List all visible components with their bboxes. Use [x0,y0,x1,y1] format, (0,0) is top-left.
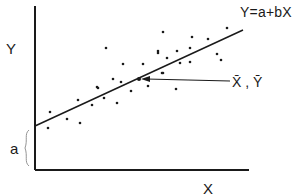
data-point [191,36,194,39]
mean-point [137,77,141,81]
data-point [226,27,229,30]
data-point [79,122,82,125]
data-point [157,52,160,55]
data-point [166,57,169,60]
data-point [96,86,99,89]
data-point [162,72,165,75]
y-axis-label: Y [6,41,16,56]
mean-arrow [141,76,230,82]
mean-point-label: X̄ , Ȳ [232,75,262,89]
data-point [147,85,150,88]
data-point [216,53,219,56]
data-point [162,31,165,34]
data-point [189,47,192,50]
data-point [91,104,94,107]
data-point [220,59,223,62]
data-point [112,78,115,81]
data-point [49,111,52,114]
data-point [105,47,108,50]
data-point [207,38,210,41]
data-point [66,118,69,121]
data-point [130,90,133,93]
data-point [142,63,145,66]
data-point [120,81,123,84]
data-point [189,61,192,64]
data-point [116,102,119,105]
data-point [179,62,182,65]
data-point [77,99,80,102]
data-point [175,88,178,91]
intercept-label: a [10,141,18,156]
intercept-brace [25,130,29,166]
regression-diagram [0,0,298,196]
data-point [176,50,179,53]
x-axis-label: X [203,181,213,196]
data-point [47,127,50,130]
data-point [122,63,125,66]
data-point [103,97,106,100]
regression-equation-label: Y=a+bX [240,5,292,19]
